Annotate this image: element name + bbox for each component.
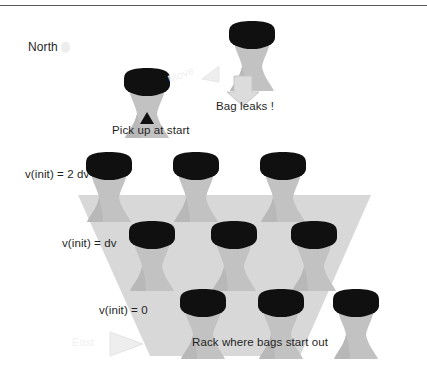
north-label: North xyxy=(28,40,58,54)
bag-row-top xyxy=(86,152,306,222)
pick-up-at-start-label: Pick up at start xyxy=(112,124,190,136)
diagram-graphics xyxy=(0,0,427,376)
bag-row-middle xyxy=(129,221,337,291)
east-label: East xyxy=(72,336,94,348)
rack-caption-label: Rack where bags start out xyxy=(192,336,328,348)
rack-bag xyxy=(333,289,379,359)
move-arrow-icon xyxy=(202,66,219,82)
east-arrow-icon xyxy=(110,332,143,356)
v-init-dv-label: v(init) = dv xyxy=(62,237,117,249)
north-arrow-icon xyxy=(61,42,70,53)
bag-row-bottom xyxy=(180,289,379,359)
v-init-0-label: v(init) = 0 xyxy=(99,304,148,316)
v-init-2dv-label: v(init) = 2 dv xyxy=(25,168,89,180)
bag-leaks-label: Bag leaks ! xyxy=(216,100,274,112)
figure-canvas: North Move Bag leaks ! Pick up at start … xyxy=(0,0,427,376)
